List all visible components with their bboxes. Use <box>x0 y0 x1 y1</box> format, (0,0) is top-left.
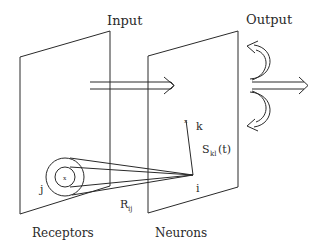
neurons-label: Neurons <box>155 226 207 240</box>
input-arrow-icon <box>90 77 174 94</box>
input-label: Input <box>107 13 143 28</box>
feedback-arrow-lower-icon <box>247 91 270 131</box>
feedback-arrow-upper-icon <box>247 41 270 80</box>
receptor-center-marker: x <box>63 174 67 181</box>
output-arrow-icon <box>252 77 308 94</box>
lateral-connection <box>186 120 193 175</box>
s-sub: kl <box>210 150 217 158</box>
r-sub: ij <box>128 205 132 213</box>
j-label: j <box>38 183 43 196</box>
r-ij-label: R ij <box>120 198 132 213</box>
neuron-k-marker: x <box>184 117 188 124</box>
s-arg: (t) <box>218 143 231 156</box>
neuron-plane <box>148 31 238 213</box>
s-kl-label: S kl (t) <box>202 143 231 158</box>
connection-lines <box>70 158 193 195</box>
i-label: i <box>196 182 200 195</box>
output-label: Output <box>246 12 293 27</box>
k-label: k <box>196 120 203 133</box>
s-main: S <box>202 143 210 156</box>
neural-model-diagram: Input Output x x <box>0 0 323 252</box>
receptors-label: Receptors <box>32 226 94 240</box>
